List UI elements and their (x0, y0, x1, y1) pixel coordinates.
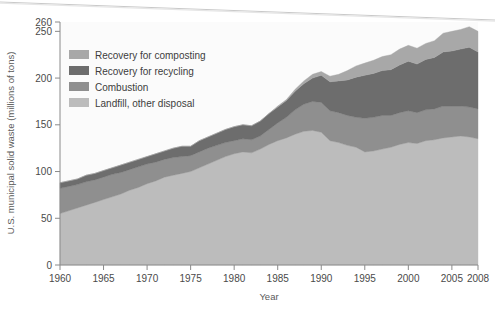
x-tick-label: 2000 (397, 273, 420, 284)
y-tick-label: 260 (35, 17, 52, 28)
legend-label: Landfill, other disposal (95, 98, 195, 109)
x-tick-label: 1975 (180, 273, 203, 284)
y-tick-label: 100 (35, 166, 52, 177)
legend-swatch (69, 82, 89, 91)
x-tick-label: 1980 (223, 273, 246, 284)
legend-label: Recovery for recycling (95, 66, 194, 77)
y-tick-label: 0 (46, 260, 52, 271)
x-tick-label: 1960 (49, 273, 72, 284)
y-tick-label: 150 (35, 119, 52, 130)
legend-label: Recovery for composting (95, 50, 206, 61)
x-tick-label: 2008 (467, 273, 490, 284)
x-tick-label: 1985 (267, 273, 290, 284)
chart-page: 050100150200250260 196019651970197519801… (0, 0, 495, 316)
x-tick-label: 1970 (136, 273, 159, 284)
y-tick-label: 200 (35, 73, 52, 84)
legend-swatch (69, 66, 89, 75)
x-axis-ticks-group: 1960196519701975198019851990199520002005… (49, 265, 490, 284)
legend-label: Combustion (95, 82, 148, 93)
y-tick-label: 50 (41, 213, 53, 224)
y-axis-title: U.S. municipal solid waste (millions of … (5, 52, 16, 235)
legend-swatch (69, 50, 89, 59)
y-axis-ticks-group: 050100150200250260 (35, 17, 60, 271)
stacked-area-chart: 050100150200250260 196019651970197519801… (0, 0, 495, 316)
x-tick-label: 1995 (354, 273, 377, 284)
x-tick-label: 1965 (92, 273, 115, 284)
x-axis-title: Year (259, 291, 278, 302)
legend-swatch (69, 98, 89, 107)
x-tick-label: 2005 (441, 273, 464, 284)
x-tick-label: 1990 (310, 273, 333, 284)
